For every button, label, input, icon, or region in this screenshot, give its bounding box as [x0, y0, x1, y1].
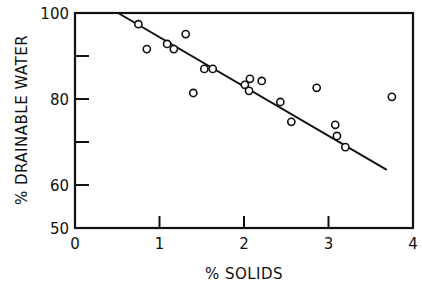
x-tick-label: 3: [324, 235, 334, 253]
scatter-chart: 506080100 01234 % SOLIDS % DRAINABLE WAT…: [0, 0, 422, 289]
y-tick-label: 80: [50, 91, 69, 109]
data-point-marker: [182, 30, 189, 37]
data-point-marker: [333, 132, 340, 139]
x-tick-label: 2: [239, 235, 249, 253]
data-point-marker: [245, 87, 252, 94]
y-tick-label: 100: [40, 5, 69, 23]
data-point-marker: [342, 144, 349, 151]
x-tick-label: 0: [70, 235, 80, 253]
data-point-marker: [170, 46, 177, 53]
data-point-marker: [277, 98, 284, 105]
data-point-marker: [388, 93, 395, 100]
data-point-marker: [201, 65, 208, 72]
y-tick-label: 50: [50, 220, 69, 238]
plot-border: [75, 13, 413, 228]
x-axis-ticks: 01234: [70, 216, 418, 253]
data-point-marker: [135, 21, 142, 28]
x-tick-label: 1: [155, 235, 165, 253]
y-axis-title: % DRAINABLE WATER: [13, 35, 31, 205]
data-point-marker: [288, 118, 295, 125]
x-axis-title: % SOLIDS: [205, 265, 283, 283]
data-point-marker: [143, 46, 150, 53]
data-point-marker: [246, 75, 253, 82]
data-point-marker: [258, 77, 265, 84]
y-tick-label: 60: [50, 177, 69, 195]
data-point-marker: [313, 84, 320, 91]
data-point-marker: [332, 121, 339, 128]
data-points: [135, 21, 396, 151]
data-point-marker: [209, 65, 216, 72]
y-axis-ticks: 506080100: [40, 5, 89, 238]
data-point-marker: [190, 89, 197, 96]
plot-frame: [75, 13, 413, 228]
x-tick-label: 4: [408, 235, 418, 253]
data-point-marker: [164, 40, 171, 47]
